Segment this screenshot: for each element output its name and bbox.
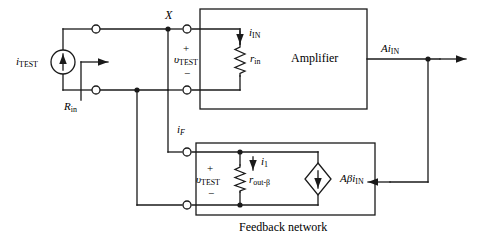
label-a-i-in: AiIN — [381, 43, 399, 56]
terminal-amp-top — [183, 25, 191, 33]
label-vtest-top-minus: − — [184, 67, 190, 79]
label-dependent-source: AβiIN — [340, 173, 364, 186]
terminal-left-bottom — [92, 86, 100, 94]
label-i-f: iF — [177, 124, 185, 137]
terminal-feedback-bottom — [183, 201, 191, 209]
label-feedback-block: Feedback network — [239, 221, 327, 233]
terminal-left-top — [92, 25, 100, 33]
circuit-schematic-svg — [0, 0, 477, 242]
resistor-rout-beta-symbol — [235, 165, 245, 192]
wire-amp-input-loop — [192, 29, 240, 90]
terminal-feedback-top — [183, 148, 191, 156]
resistor-rin-symbol — [235, 44, 245, 76]
label-vtest-top-plus: + — [183, 42, 189, 54]
label-vtest-bottom-minus: − — [208, 187, 214, 199]
label-rout-beta: rout-β — [249, 174, 270, 187]
label-vtest-bottom-plus: + — [207, 162, 213, 174]
label-node-x: X — [165, 9, 172, 21]
label-amplifier-block: Amplifier — [291, 52, 338, 64]
label-vtest-bottom: υTEST — [196, 174, 220, 187]
label-i-1: i1 — [261, 156, 268, 169]
wire-source-bottom — [63, 74, 168, 90]
terminal-amp-bottom — [183, 86, 191, 94]
amplifier-block-outline — [200, 9, 367, 109]
label-i-in: iIN — [249, 27, 260, 40]
wire-source-top — [63, 29, 168, 50]
label-r-in-total: Rin — [64, 101, 77, 114]
wire-output-feedback-path — [368, 59, 428, 182]
label-itest: iTEST — [16, 56, 38, 69]
label-vtest-top: υTEST — [174, 54, 198, 67]
junction-feedback-top — [237, 149, 242, 154]
junction-feedback-bottom — [237, 202, 242, 207]
circuit-diagram-canvas: iTEST Rin X + υTEST − iIN rin Amplifier … — [0, 0, 477, 242]
label-rin: rin — [250, 53, 260, 66]
